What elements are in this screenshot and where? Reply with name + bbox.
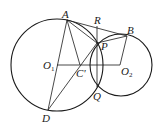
label-c: C' <box>76 67 86 79</box>
label-o1: O1 <box>43 59 55 73</box>
label-a: A <box>61 8 69 20</box>
label-q: Q <box>93 90 101 102</box>
segment-ap <box>67 20 97 43</box>
label-o2: O2 <box>121 65 133 79</box>
label-d: D <box>41 112 50 124</box>
segment-bo2 <box>120 36 127 65</box>
label-r: R <box>93 14 101 26</box>
label-p: P <box>100 40 108 52</box>
geometry-diagram: A R B P O1 C' O2 Q D <box>0 0 159 126</box>
segment-ac <box>67 20 80 65</box>
label-b: B <box>127 24 134 36</box>
